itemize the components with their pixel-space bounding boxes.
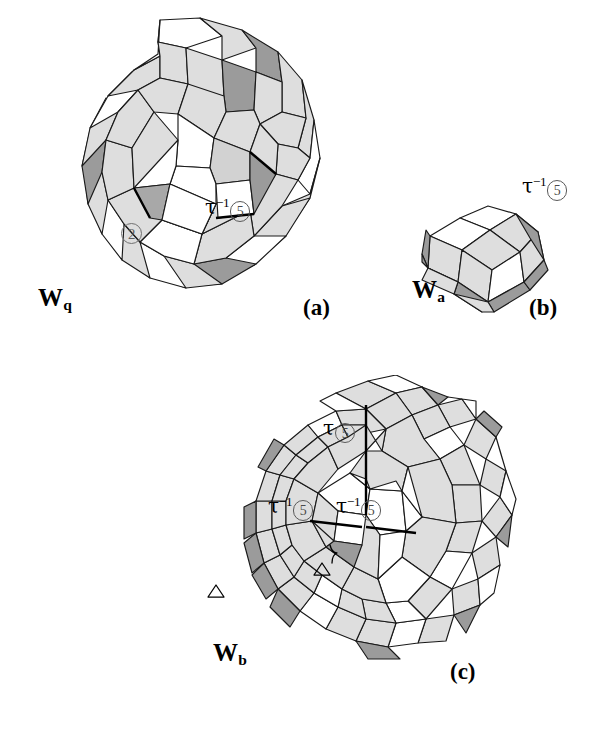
panel-a-circled-2-label: 2 xyxy=(120,220,142,244)
circled-five-icon: 5 xyxy=(361,500,381,520)
panel-c-tau-5-label: τ5 xyxy=(323,418,355,443)
panel-b-cluster-base: W xyxy=(412,276,437,303)
circled-two-icon: 2 xyxy=(121,223,142,244)
circled-five-icon: 5 xyxy=(293,500,313,520)
panel-c-cluster-base: W xyxy=(213,639,238,666)
panel-c-tau-inverse-5-left-label: τ−15 xyxy=(268,495,313,521)
tau-exponent: −1 xyxy=(279,494,292,509)
tau-glyph: τ xyxy=(336,494,347,518)
panel-c-caption: (c) xyxy=(450,660,476,683)
panel-a-caption: (a) xyxy=(303,296,330,319)
circled-five-icon: 5 xyxy=(547,180,567,200)
tau-glyph: τ xyxy=(205,195,216,219)
panel-b-cluster-label: Wa xyxy=(412,277,445,305)
tau-exponent: −1 xyxy=(216,195,229,210)
panel-a-cluster-label: Wq xyxy=(38,285,72,313)
circled-five-icon: 5 xyxy=(230,201,250,221)
tau-exponent: −1 xyxy=(347,494,360,509)
panel-b-tau-inverse-5-label: τ−15 xyxy=(522,175,567,201)
tau-glyph: τ xyxy=(323,416,334,440)
panel-a-tau-inverse-5-label: τ−15 xyxy=(205,196,250,222)
tau-glyph: τ xyxy=(522,174,533,198)
panel-b-caption: (b) xyxy=(529,296,557,319)
tau-exponent: −1 xyxy=(533,174,546,189)
figure-root: Wq τ−15 2 (a) xyxy=(0,0,602,735)
panel-c-cluster-sub: b xyxy=(238,651,247,668)
circled-five-icon: 5 xyxy=(335,423,355,443)
panel-a-cluster-sub: q xyxy=(63,296,72,313)
panel-a-cluster-base: W xyxy=(38,284,63,311)
panel-c-cluster-label: Wb xyxy=(213,640,247,668)
panel-c-tau-inverse-5-right-label: τ−15 xyxy=(336,495,381,521)
panel-b-cluster-sub: a xyxy=(437,288,445,305)
tau-glyph: τ xyxy=(268,494,279,518)
